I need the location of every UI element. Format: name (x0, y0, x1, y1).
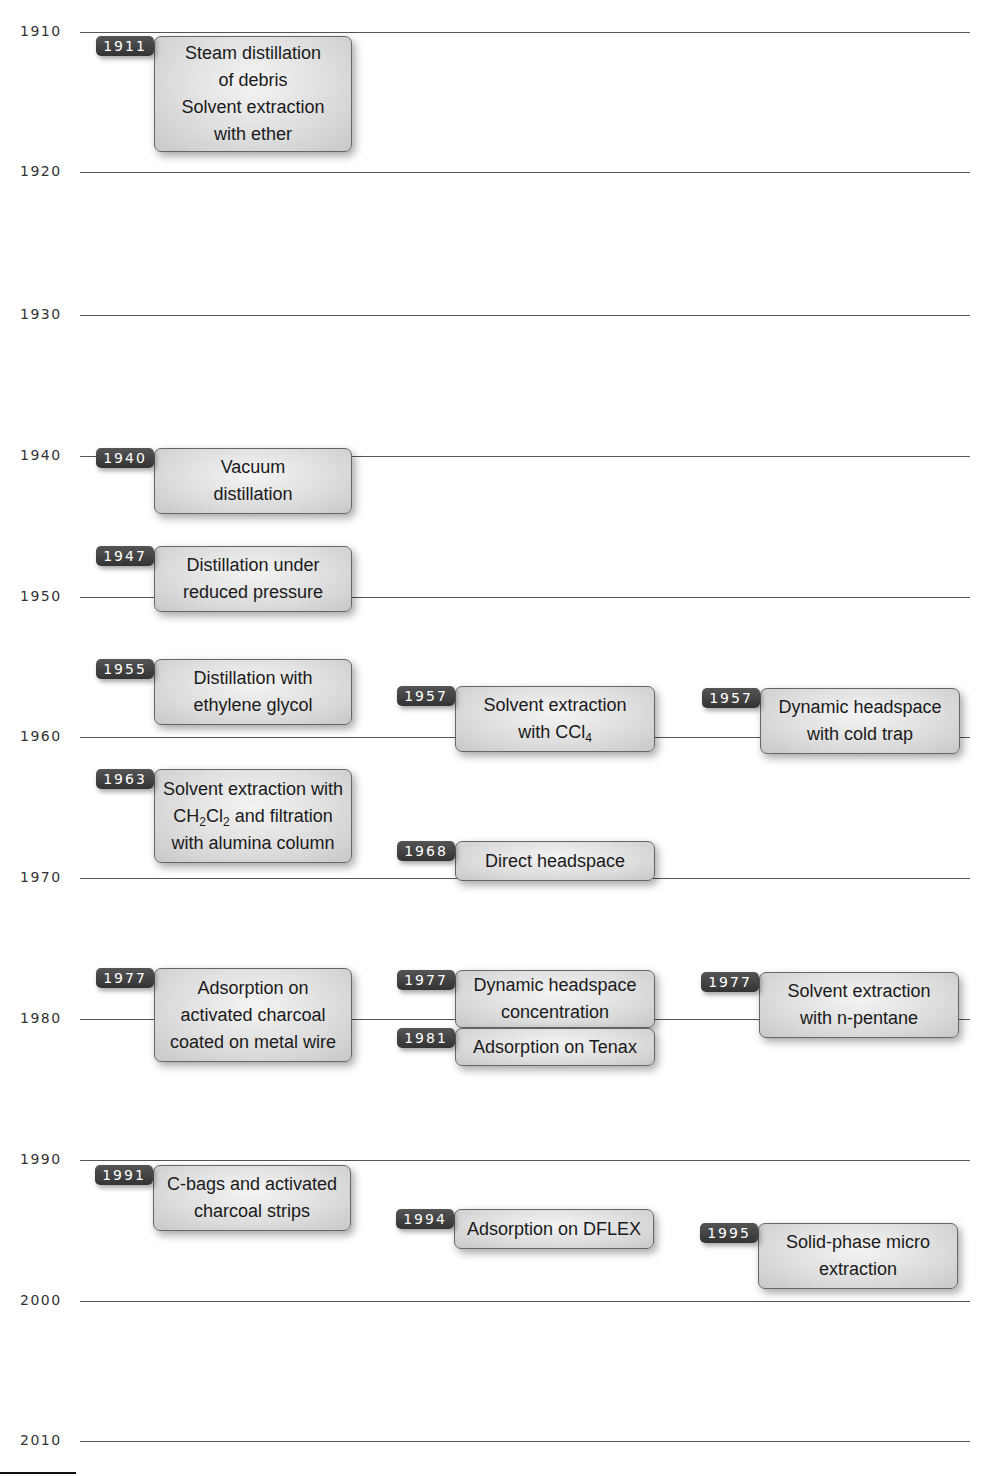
event-text-line: CH2Cl2 and filtration (163, 803, 343, 830)
event-text-line: activated charcoal (170, 1002, 336, 1029)
bottom-rule (0, 1472, 76, 1474)
event-text-line: Solvent extraction (483, 692, 626, 719)
event-box: Steam distillationof debrisSolvent extra… (154, 36, 352, 152)
axis-tick-label: 1960 (20, 728, 76, 744)
event-text-line: Adsorption on (170, 975, 336, 1002)
event-box: Distillation withethylene glycol (154, 659, 352, 725)
event-box: C-bags and activatedcharcoal strips (153, 1165, 351, 1231)
axis-tick-label: 1980 (20, 1010, 76, 1026)
event-text-line: of debris (181, 67, 324, 94)
event-box: Adsorption on DFLEX (454, 1209, 654, 1249)
event-text-line: Distillation with (193, 665, 312, 692)
year-badge: 1977 (701, 972, 759, 992)
axis-tick-label: 1990 (20, 1151, 76, 1167)
event-text-line: Solvent extraction with (163, 776, 343, 803)
event-text-line: with cold trap (778, 721, 941, 748)
year-badge: 1968 (397, 841, 455, 861)
event-box: Solvent extraction withCH2Cl2 and filtra… (154, 769, 352, 863)
axis-tick-label: 1930 (20, 306, 76, 322)
event-text-line: with n-pentane (787, 1005, 930, 1032)
year-badge: 1991 (95, 1165, 153, 1185)
event-text-line: with ether (181, 121, 324, 148)
event-text-line: concentration (473, 999, 636, 1026)
year-badge: 1981 (397, 1028, 455, 1048)
event-box: Dynamic headspacewith cold trap (760, 688, 960, 754)
event-text-line: Vacuum (213, 454, 292, 481)
event-box: Adsorption on Tenax (455, 1028, 655, 1066)
event-box: Solvent extractionwith n-pentane (759, 972, 959, 1038)
event-box: Direct headspace (455, 841, 655, 881)
gridline (80, 315, 970, 316)
axis-tick-label: 2000 (20, 1292, 76, 1308)
year-badge: 1957 (397, 686, 455, 706)
year-badge: 1957 (702, 688, 760, 708)
event-text-line: Steam distillation (181, 40, 324, 67)
year-badge: 1940 (96, 448, 154, 468)
axis-tick-label: 1970 (20, 869, 76, 885)
axis-tick-label: 2010 (20, 1432, 76, 1448)
year-badge: 1977 (96, 968, 154, 988)
event-text-line: coated on metal wire (170, 1029, 336, 1056)
axis-tick-label: 1920 (20, 163, 76, 179)
event-text-line: C-bags and activated (167, 1171, 337, 1198)
gridline (80, 1441, 970, 1442)
event-text-line: Adsorption on DFLEX (467, 1216, 641, 1243)
event-text-line: charcoal strips (167, 1198, 337, 1225)
gridline (80, 172, 970, 173)
event-text-line: Solvent extraction (787, 978, 930, 1005)
event-text-line: Solvent extraction (181, 94, 324, 121)
axis-tick-label: 1940 (20, 447, 76, 463)
event-box: Distillation underreduced pressure (154, 546, 352, 612)
year-badge: 1994 (396, 1209, 454, 1229)
event-text-line: with alumina column (163, 830, 343, 857)
event-box: Solvent extractionwith CCl4 (455, 686, 655, 752)
year-badge: 1977 (397, 970, 455, 990)
event-text-line: Dynamic headspace (778, 694, 941, 721)
gridline (80, 32, 970, 33)
year-badge: 1963 (96, 769, 154, 789)
event-text-line: Direct headspace (485, 848, 625, 875)
gridline (80, 1160, 970, 1161)
gridline (80, 1301, 970, 1302)
event-text-line: with CCl4 (483, 719, 626, 746)
event-text-line: ethylene glycol (193, 692, 312, 719)
event-text-line: Solid-phase micro (786, 1229, 930, 1256)
event-box: Vacuumdistillation (154, 448, 352, 514)
event-text-line: extraction (786, 1256, 930, 1283)
event-text-line: Dynamic headspace (473, 972, 636, 999)
event-box: Adsorption onactivated charcoalcoated on… (154, 968, 352, 1062)
year-badge: 1955 (96, 659, 154, 679)
event-text-line: distillation (213, 481, 292, 508)
event-text-line: Distillation under (183, 552, 323, 579)
event-text-line: Adsorption on Tenax (473, 1034, 637, 1061)
event-box: Dynamic headspaceconcentration (455, 970, 655, 1028)
year-badge: 1947 (96, 546, 154, 566)
axis-tick-label: 1910 (20, 23, 76, 39)
axis-tick-label: 1950 (20, 588, 76, 604)
event-box: Solid-phase microextraction (758, 1223, 958, 1289)
event-text-line: reduced pressure (183, 579, 323, 606)
year-badge: 1911 (96, 36, 154, 56)
year-badge: 1995 (700, 1223, 758, 1243)
